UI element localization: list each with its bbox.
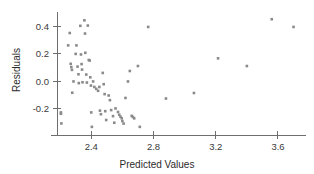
x-tick-label: 2.4 <box>85 141 98 152</box>
x-axis: 2.42.83.23.6 <box>51 131 306 152</box>
data-point <box>133 117 136 120</box>
data-point <box>147 26 150 29</box>
data-point <box>71 91 74 94</box>
data-point <box>102 83 105 86</box>
data-point <box>89 76 92 79</box>
data-point <box>98 86 101 89</box>
data-point <box>85 73 88 76</box>
y-tick-label: 0.4 <box>36 21 49 32</box>
data-point <box>99 109 102 112</box>
data-point <box>270 18 273 21</box>
data-point <box>100 113 103 116</box>
data-point <box>60 122 63 125</box>
data-point <box>87 24 90 27</box>
data-point <box>104 110 107 113</box>
data-point <box>113 121 116 124</box>
data-point <box>60 112 63 115</box>
y-tick-label: -0.2 <box>33 103 49 114</box>
data-point <box>137 65 140 68</box>
x-tick-label: 3.6 <box>271 141 284 152</box>
data-point <box>71 69 74 72</box>
data-point <box>80 53 83 56</box>
data-point <box>79 25 82 28</box>
x-tick-label: 3.2 <box>209 141 222 152</box>
data-point <box>84 52 87 55</box>
data-point <box>74 53 77 56</box>
data-point <box>105 119 108 122</box>
data-point <box>246 65 249 68</box>
data-point <box>121 120 124 123</box>
data-point <box>70 66 73 69</box>
data-point <box>127 80 130 83</box>
data-point <box>193 92 196 95</box>
y-tick-label: 0.2 <box>36 48 49 59</box>
x-tick-labels: 2.42.83.23.6 <box>85 141 285 152</box>
x-axis-title: Predicted Values <box>120 159 195 170</box>
data-point <box>90 111 93 114</box>
data-point <box>86 81 89 84</box>
data-point <box>129 70 132 73</box>
data-point <box>92 80 95 83</box>
data-point <box>138 126 141 129</box>
data-point <box>68 32 71 35</box>
data-point <box>165 97 168 100</box>
data-point <box>83 19 86 22</box>
data-points-layer <box>60 18 295 128</box>
data-point <box>114 107 117 110</box>
data-point <box>76 65 79 68</box>
data-point <box>117 111 120 114</box>
data-point <box>122 122 125 125</box>
data-point <box>97 90 100 93</box>
data-point <box>69 63 72 66</box>
data-point <box>77 73 80 76</box>
data-point <box>75 44 78 47</box>
data-point <box>107 94 110 97</box>
data-point <box>80 63 83 66</box>
data-point <box>217 57 220 60</box>
data-point <box>91 126 94 129</box>
data-point <box>77 82 80 85</box>
data-point <box>88 59 91 62</box>
y-axis: -0.20.00.20.4 <box>33 12 61 135</box>
residuals-scatter-plot: -0.20.00.20.4 2.42.83.23.6 Predicted Val… <box>0 0 314 174</box>
plot-canvas: -0.20.00.20.4 2.42.83.23.6 Predicted Val… <box>0 0 314 174</box>
data-point <box>84 32 87 35</box>
y-tick-labels: -0.20.00.20.4 <box>33 21 49 115</box>
y-tick-label: 0.0 <box>36 76 49 87</box>
data-point <box>292 26 295 29</box>
data-point <box>72 80 75 83</box>
data-point <box>90 84 93 87</box>
y-axis-title: Residuals <box>11 48 22 92</box>
x-tick-label: 2.8 <box>147 141 160 152</box>
data-point <box>67 44 70 47</box>
data-point <box>110 109 113 112</box>
data-point <box>101 72 104 75</box>
data-point <box>120 117 123 120</box>
data-point <box>109 99 112 102</box>
data-point <box>81 81 84 84</box>
data-point <box>124 97 127 100</box>
data-point <box>81 68 84 71</box>
data-point <box>112 115 115 118</box>
data-point <box>103 93 106 96</box>
